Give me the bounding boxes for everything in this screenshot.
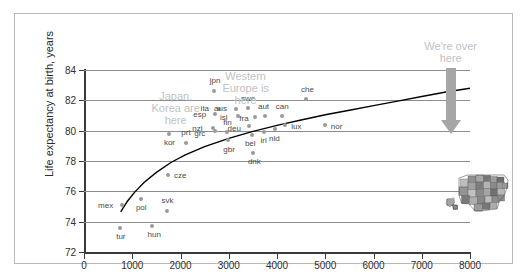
x-tick-label-3000: 3000	[207, 260, 251, 271]
data-point-cze[interactable]	[166, 173, 170, 177]
x-tick-mark-0	[84, 254, 85, 259]
x-tick-label-8000: 8000	[448, 260, 492, 271]
data-point-label-cze: cze	[174, 171, 186, 180]
data-point-label-kor: kor	[164, 138, 175, 147]
x-tick-mark-1000	[132, 254, 133, 259]
x-tick-label-1000: 1000	[110, 260, 154, 271]
data-point-label-lux: lux	[291, 122, 301, 131]
y-tick-label-72: 72	[46, 247, 76, 258]
y-tick-label-76: 76	[46, 186, 76, 197]
data-point-label-dnk: dnk	[248, 157, 261, 166]
data-point-label-nld: nld	[269, 134, 280, 143]
annotation-were-over-here: We're over here	[411, 40, 491, 64]
annotation-western-europe: Western Europe is here	[206, 70, 286, 106]
data-point-deu[interactable]	[247, 124, 251, 128]
data-point-can[interactable]	[280, 114, 284, 118]
x-tick-mark-4000	[277, 254, 278, 259]
annotation-japan-korea: Japan, Korea are here	[136, 90, 216, 126]
x-tick-mark-7000	[422, 254, 423, 259]
x-tick-label-4000: 4000	[255, 260, 299, 271]
data-point-swe[interactable]	[246, 106, 250, 110]
data-point-lux[interactable]	[283, 123, 287, 127]
data-point-bel[interactable]	[250, 133, 254, 137]
data-point-aus[interactable]	[234, 107, 238, 111]
data-point-label-gbr: gbr	[223, 145, 235, 154]
data-point-fra[interactable]	[253, 115, 257, 119]
data-point-label-deu: deu	[227, 124, 240, 133]
x-tick-label-5000: 5000	[303, 260, 347, 271]
data-point-che[interactable]	[304, 97, 308, 101]
data-point-label-svk: svk	[162, 196, 174, 205]
y-tick-label-74: 74	[46, 216, 76, 227]
arrow-shaft	[446, 68, 456, 120]
data-point-label-mex: mex	[98, 201, 113, 210]
data-point-label-nor: nor	[331, 122, 343, 131]
data-point-grc[interactable]	[213, 129, 217, 133]
data-point-label-prt: prt	[181, 128, 190, 137]
data-point-label-grc: grc	[194, 129, 205, 138]
data-point-label-isl: isl	[220, 113, 228, 122]
data-point-pol[interactable]	[139, 197, 143, 201]
x-tick-label-2000: 2000	[159, 260, 203, 271]
data-point-tur[interactable]	[118, 226, 122, 230]
y-tick-label-84: 84	[46, 65, 76, 76]
data-point-mex[interactable]	[120, 203, 124, 207]
data-point-nld[interactable]	[273, 127, 277, 131]
data-point-irl[interactable]	[262, 130, 266, 134]
x-tick-mark-2000	[181, 254, 182, 259]
chart-frame: Life expectancy at birth, years 72747678…	[14, 13, 513, 264]
data-point-prt[interactable]	[184, 141, 188, 145]
data-point-label-bel: bel	[245, 139, 256, 148]
x-tick-mark-6000	[374, 254, 375, 259]
data-point-label-fra: fra	[239, 114, 248, 123]
y-tick-mark-72	[79, 252, 84, 253]
data-point-label-hun: hun	[148, 230, 161, 239]
data-point-label-che: che	[301, 85, 314, 94]
x-tick-label-6000: 6000	[352, 260, 396, 271]
data-point-hun[interactable]	[150, 224, 154, 228]
x-tick-mark-3000	[229, 254, 230, 259]
united-states-map-icon	[439, 172, 513, 216]
x-tick-mark-5000	[325, 254, 326, 259]
y-tick-label-82: 82	[46, 95, 76, 106]
data-point-nor[interactable]	[323, 123, 327, 127]
data-point-label-irl: irl	[260, 136, 266, 145]
x-tick-mark-8000	[470, 254, 471, 259]
data-point-dnk[interactable]	[251, 151, 255, 155]
y-tick-label-80: 80	[46, 125, 76, 136]
data-point-svk[interactable]	[165, 209, 169, 213]
data-point-gbr[interactable]	[226, 138, 230, 142]
plot-area: turmexhunpolsvkczekorprtjpnespitanzlgrcf…	[84, 70, 470, 252]
data-point-kor[interactable]	[167, 132, 171, 136]
x-tick-label-7000: 7000	[400, 260, 444, 271]
y-tick-label-78: 78	[46, 156, 76, 167]
data-point-label-tur: tur	[116, 232, 125, 241]
x-tick-label-0: 0	[62, 260, 106, 271]
data-point-aut[interactable]	[263, 114, 267, 118]
arrow-head-icon	[441, 120, 461, 134]
chart-screenshot: Life expectancy at birth, years 72747678…	[0, 0, 527, 277]
data-point-label-pol: pol	[136, 203, 147, 212]
